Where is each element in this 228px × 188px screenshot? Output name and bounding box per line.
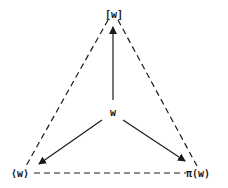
dashed-edge-top-right — [118, 20, 197, 166]
node-label-top: [w] — [105, 10, 123, 20]
node-label-left: ⟨w⟩ — [11, 169, 29, 179]
diagram-edges — [0, 0, 228, 188]
diagram-canvas: [w] w ⟨w⟩ π(w) — [0, 0, 228, 188]
node-label-center: w — [110, 108, 116, 118]
node-label-right: π(w) — [186, 169, 210, 179]
